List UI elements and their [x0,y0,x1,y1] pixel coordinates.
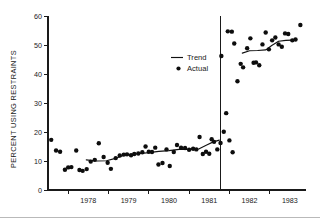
y-tick-label: 0 [38,186,42,195]
x-tick-label: 1983 [282,196,298,205]
y-axis-tick-labels: 0102030405060 [34,12,42,195]
data-point [267,47,271,51]
data-point [143,144,147,148]
data-point [58,150,62,154]
data-point [49,138,53,142]
data-point [164,147,168,151]
chart-legend: Trend Actual [171,53,208,73]
data-point [194,147,198,151]
data-point [226,29,230,33]
data-point [54,148,58,152]
y-axis-ticks [44,16,48,190]
x-axis-ticks [68,190,270,194]
data-point [132,152,136,156]
data-point [245,46,249,50]
data-point [80,169,84,173]
y-axis-title: PERCENT USING RESTRAINTS [9,50,18,168]
data-point [230,150,234,154]
data-point [230,29,234,33]
data-point [298,23,302,27]
trend-line-post [242,40,292,53]
y-tick-label: 30 [34,99,42,108]
data-point [293,37,297,41]
data-point [114,156,118,160]
data-point [218,141,222,145]
x-tick-label: 1981 [201,196,217,205]
data-point [248,36,252,40]
data-point [207,152,211,156]
data-point [227,138,231,142]
data-point [85,167,89,171]
data-point [179,145,183,149]
y-tick-label: 50 [34,41,42,50]
legend-label-trend: Trend [187,53,207,62]
legend-actual-dot-swatch [176,66,180,70]
actual-data-points [49,23,303,173]
data-point [109,167,113,171]
data-point [187,147,191,151]
data-point [273,35,277,39]
data-point [125,152,129,156]
data-point [69,165,73,169]
data-point [183,146,187,150]
data-point [156,162,160,166]
data-point [93,158,97,162]
data-point [263,30,267,34]
axis-lines [48,16,306,190]
data-point [224,111,228,115]
legend-label-actual: Actual [187,64,208,73]
x-tick-label: 1982 [242,196,258,205]
data-point [153,145,157,149]
data-point [101,155,105,159]
x-tick-label: 1979 [121,196,137,205]
data-point [260,42,264,46]
axes-group [44,16,306,194]
data-point [150,150,154,154]
data-point [232,41,236,45]
data-point [168,164,172,168]
data-point [212,140,216,144]
data-point [257,63,261,67]
data-point [219,54,223,58]
data-point [105,161,109,165]
data-point [241,65,245,69]
data-point [160,161,164,165]
x-axis-tick-labels: 197819791980198119821983 [80,196,298,205]
y-tick-label: 60 [34,12,42,21]
data-point [222,130,226,134]
data-point [74,148,78,152]
chart-figure: 0102030405060 197819791980198119821983 P… [0,0,320,218]
data-point [136,151,140,155]
y-tick-label: 10 [34,157,42,166]
y-tick-label: 40 [34,70,42,79]
data-point [215,147,219,151]
data-point [286,32,290,36]
x-tick-label: 1978 [80,196,96,205]
data-point [118,153,122,157]
data-point [235,79,239,83]
data-point [172,150,176,154]
data-point [97,141,101,145]
data-point [280,45,284,49]
chart-canvas: 0102030405060 197819791980198119821983 P… [0,0,320,218]
data-point [175,143,179,147]
y-tick-label: 20 [34,128,42,137]
x-tick-label: 1980 [161,196,177,205]
data-point [197,135,201,139]
data-point [140,150,144,154]
data-point [89,159,93,163]
